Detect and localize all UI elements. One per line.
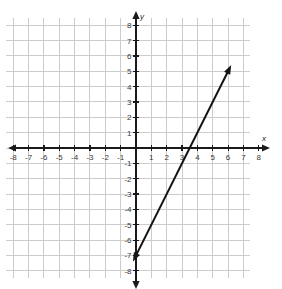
y-axis-arrow-down	[132, 281, 139, 289]
y-tick-label: -1	[124, 159, 132, 168]
x-tick-label: 5	[211, 153, 216, 162]
y-tick-label: -7	[124, 251, 132, 260]
coordinate-plane-graph: -8-7-6-5-4-3-2-112345678 87654321-1-2-3-…	[0, 0, 282, 289]
x-tick-label: -7	[25, 153, 33, 162]
y-tick-label: -5	[124, 221, 132, 230]
x-tick-label: 7	[241, 153, 246, 162]
y-tick-label: 6	[127, 52, 132, 61]
x-axis-arrow-right	[262, 144, 270, 151]
y-tick-label: -6	[124, 236, 132, 245]
y-tick-label: -4	[124, 205, 132, 214]
x-tick-label: -5	[56, 153, 64, 162]
x-tick-label: -3	[86, 153, 94, 162]
y-tick-label: 7	[127, 37, 132, 46]
x-tick-label: 8	[257, 153, 262, 162]
x-tick-label: 4	[195, 153, 200, 162]
x-axis-label: x	[261, 134, 267, 143]
y-tick-label: 2	[127, 113, 132, 122]
x-tick-label: -8	[10, 153, 18, 162]
y-tick-label: -3	[124, 190, 132, 199]
x-tick-label: -2	[102, 153, 110, 162]
x-tick-label: -4	[71, 153, 79, 162]
y-tick-label: -2	[124, 175, 132, 184]
x-axis-arrow-left	[8, 144, 16, 151]
x-tick-label: 6	[226, 153, 231, 162]
x-tick-label: 2	[164, 153, 169, 162]
y-tick-label: 5	[127, 67, 132, 76]
y-tick-label: 8	[127, 21, 132, 30]
y-axis-label: y	[139, 12, 145, 21]
y-tick-label: 1	[127, 129, 132, 138]
y-tick-label: -8	[124, 267, 132, 276]
x-tick-label: 1	[149, 153, 154, 162]
y-tick-label: 4	[127, 83, 132, 92]
graph-canvas: -8-7-6-5-4-3-2-112345678 87654321-1-2-3-…	[0, 0, 282, 289]
y-axis-arrow-up	[132, 11, 139, 19]
x-tick-label: -6	[40, 153, 48, 162]
y-tick-label: 3	[127, 98, 132, 107]
